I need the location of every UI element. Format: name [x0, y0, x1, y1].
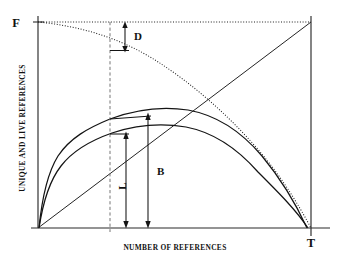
x-axis-title: NUMBER OF REFERENCES	[123, 243, 226, 252]
y-axis-title: UNIQUE AND LIVE REFERENCES	[18, 64, 27, 192]
annotation-l-label: L	[116, 182, 128, 189]
t-axis-endpoint-label: T	[307, 236, 316, 250]
annotation-l-arrowhead-top	[123, 132, 128, 140]
annotation-d-arrowhead-bottom	[122, 46, 127, 53]
annotation-b-arrowhead-bottom	[145, 221, 150, 229]
chart-canvas: F T D B L NUMBER OF REFERENCES UNIQUE AN…	[0, 0, 346, 265]
annotation-l	[110, 132, 129, 229]
annotation-d	[110, 22, 129, 53]
annotation-b-label: B	[157, 165, 165, 177]
annotation-b	[110, 113, 151, 229]
annotation-l-arrowhead-bottom	[123, 221, 128, 229]
live-references-curve	[39, 125, 308, 228]
annotation-d-label: D	[134, 30, 142, 42]
chart-figure: F T D B L NUMBER OF REFERENCES UNIQUE AN…	[0, 0, 346, 265]
annotation-d-arrowhead-top	[122, 22, 127, 29]
f-axis-endpoint-label: F	[12, 16, 20, 30]
